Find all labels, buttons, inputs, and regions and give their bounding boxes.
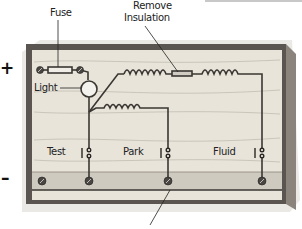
negative-terminal-symbol: – (1, 168, 10, 188)
fuse (48, 67, 72, 73)
positive-terminal-symbol: + (0, 58, 14, 78)
park-label: Park (123, 146, 143, 157)
terminal-strip (32, 172, 282, 190)
remove-insulation-label-line1: Remove (133, 0, 172, 11)
light-label: Light (34, 82, 57, 93)
fluid-label: Fluid (213, 146, 236, 157)
fuse-label: Fuse (50, 7, 72, 18)
remove-insulation-label-line2: Insulation (124, 12, 170, 23)
wiring-board-illustration (0, 0, 302, 229)
test-label: Test (47, 146, 66, 157)
light-bulb (81, 81, 97, 97)
